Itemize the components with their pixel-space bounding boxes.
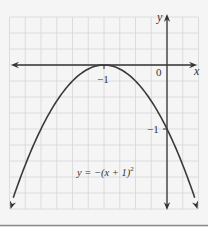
parabola-chart: y x 0 −1 −1 y = −(x + 1)2 <box>0 0 208 227</box>
curve-left-arrow-icon <box>10 200 16 209</box>
equation-text: y = −(x + 1) <box>76 167 131 179</box>
x-axis-label: x <box>193 64 200 78</box>
origin-label: 0 <box>156 66 162 78</box>
equation-exponent: 2 <box>130 165 134 173</box>
x-tick-label-neg1: −1 <box>97 73 109 85</box>
y-axis-label: y <box>156 10 163 24</box>
curve-right-arrow-icon <box>192 200 198 209</box>
equation-label: y = −(x + 1)2 <box>76 165 134 179</box>
y-tick-label-neg1: −1 <box>147 123 159 135</box>
grid-lines <box>10 17 199 209</box>
